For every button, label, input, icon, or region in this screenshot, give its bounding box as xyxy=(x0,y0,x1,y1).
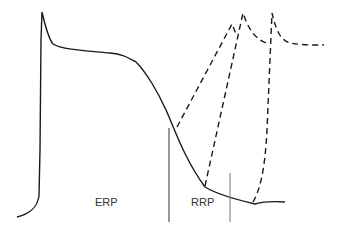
dashed-response-1 xyxy=(177,24,236,127)
action-potential-trace xyxy=(17,12,285,217)
dashed-response-2 xyxy=(205,13,266,186)
action-potential-diagram xyxy=(0,0,338,232)
rrp-label: RRP xyxy=(191,196,214,208)
erp-label: ERP xyxy=(95,196,118,208)
